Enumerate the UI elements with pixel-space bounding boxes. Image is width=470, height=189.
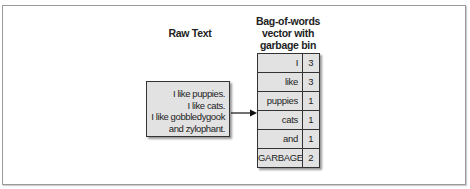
bag-of-words-title: Bag-of-words vector with garbage bin	[252, 15, 324, 51]
raw-text-line: I like gobbledygook	[147, 111, 225, 123]
vector-count: 3	[303, 54, 319, 72]
bag-of-words-vector: I 3 like 3 puppies 1 cats 1 and 1 GARBAG…	[257, 53, 320, 168]
vector-row: puppies 1	[258, 91, 319, 110]
title-line: vector with	[252, 27, 324, 39]
vector-word: puppies	[258, 92, 303, 110]
raw-text-box: I like puppies. I like cats. I like gobb…	[146, 81, 230, 137]
right-arrow-icon	[231, 109, 258, 117]
vector-row: I 3	[258, 54, 319, 72]
figure-frame	[2, 5, 466, 185]
raw-text-title: Raw Text	[160, 27, 220, 39]
vector-word: and	[258, 130, 303, 148]
vector-row: GARBAGE 2	[258, 148, 319, 167]
vector-word: cats	[258, 111, 303, 129]
vector-count: 1	[303, 130, 319, 148]
vector-row: and 1	[258, 129, 319, 148]
vector-word: like	[258, 73, 303, 91]
title-line: garbage bin	[252, 39, 324, 51]
vector-word: GARBAGE	[258, 149, 303, 167]
vector-count: 2	[303, 149, 319, 167]
raw-text-line: I like cats.	[147, 100, 225, 112]
raw-text-line: and zylophant.	[147, 123, 225, 135]
vector-count: 1	[303, 111, 319, 129]
vector-row: cats 1	[258, 110, 319, 129]
title-line: Bag-of-words	[252, 15, 324, 27]
vector-row: like 3	[258, 72, 319, 91]
raw-text-line: I like puppies.	[147, 88, 225, 100]
vector-count: 1	[303, 92, 319, 110]
vector-word: I	[258, 54, 303, 72]
vector-count: 3	[303, 73, 319, 91]
